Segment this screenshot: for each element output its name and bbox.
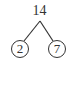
factor-tree: 14 2 7 bbox=[0, 0, 79, 90]
leaf-node-right: 7 bbox=[48, 40, 66, 58]
branch-right bbox=[40, 21, 53, 41]
branch-left bbox=[24, 21, 40, 41]
leaf-node-right-label: 7 bbox=[54, 41, 61, 57]
root-node: 14 bbox=[0, 3, 79, 19]
leaf-node-left: 2 bbox=[11, 40, 29, 58]
leaf-node-left-label: 2 bbox=[17, 41, 24, 57]
